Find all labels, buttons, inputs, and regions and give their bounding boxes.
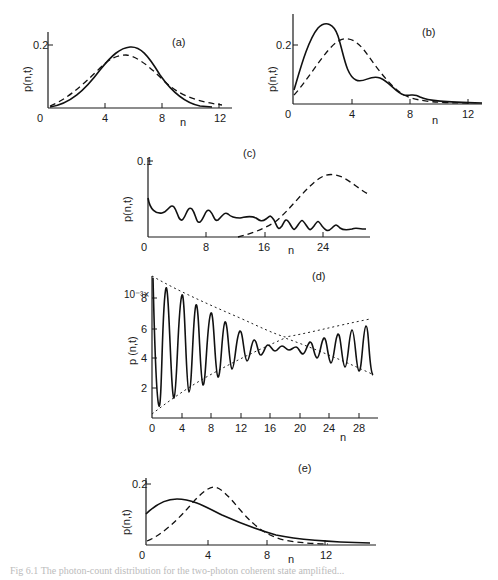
panel-d-ylabel: p (n,t) <box>126 336 138 365</box>
panel-d-ytick-4: 4 <box>141 352 147 364</box>
panel-d-oscillating-curve <box>153 278 373 406</box>
panel-e-xtick-12: 12 <box>320 549 332 561</box>
panel-e-ytick: 0.2 <box>132 478 147 490</box>
panel-b-solid-curve <box>294 24 482 103</box>
panel-e-title: (e) <box>298 462 311 474</box>
panel-e-solid-curve <box>146 499 370 543</box>
panel-a-xtick-4: 4 <box>102 112 108 124</box>
panel-d-xtick-0: 0 <box>149 422 155 434</box>
panel-d-ytick-2: 2 <box>141 382 147 394</box>
panel-a-xtick-8: 8 <box>159 112 165 124</box>
panel-c-xtick-16: 16 <box>258 241 270 253</box>
panel-a-xtick-12: 12 <box>214 112 226 124</box>
panel-d-xtick-28: 28 <box>353 422 365 434</box>
panel-c-xlabel: n <box>288 244 294 256</box>
panel-b-title: (b) <box>422 26 435 38</box>
panel-a-xtick-0: 0 <box>37 112 43 124</box>
panel-d-xtick-12: 12 <box>235 422 247 434</box>
panel-e-dashed-curve <box>147 487 328 544</box>
panel-d-xtick-24: 24 <box>323 422 335 434</box>
panel-a-xlabel: n <box>180 116 186 128</box>
panel-d-xtick-8: 8 <box>208 422 214 434</box>
panel-b-xtick-12: 12 <box>462 108 474 120</box>
panel-c-xtick-0: 0 <box>141 241 147 253</box>
panel-a-ytick: 0.2 <box>33 39 48 51</box>
panel-b-xtick-8: 8 <box>407 108 413 120</box>
panel-d-xlabel: n <box>340 431 346 443</box>
panel-e-xtick-4: 4 <box>205 549 211 561</box>
panel-b-dashed-curve <box>294 39 470 103</box>
panel-c-solid-curve <box>148 198 366 230</box>
panel-a-dashed-curve <box>50 55 222 106</box>
panel-d-scale-label: 10⁻³× <box>124 289 149 300</box>
figure: 0.2 0 4 8 12 n p(n,t) (a) 0.2 0 4 8 12 n… <box>0 0 498 580</box>
panel-c-ytick: 0.1 <box>137 155 152 167</box>
panel-a-title: (a) <box>172 36 185 48</box>
panel-e-ylabel: p(n,t) <box>120 509 132 535</box>
panel-b-ytick: 0.2 <box>276 39 291 51</box>
panel-a-ylabel: p(n,t) <box>21 66 33 92</box>
panel-b-xtick-4: 4 <box>349 108 355 120</box>
panel-c-dashed-curve <box>238 175 370 238</box>
panel-d: 2 4 6 8 10⁻³× 0 4 8 12 16 20 24 28 n p (… <box>124 270 378 443</box>
panel-d-xtick-4: 4 <box>179 422 185 434</box>
panel-d-ytick-6: 6 <box>141 323 147 335</box>
panel-b: 0.2 0 4 8 12 n p(n,t) (b) <box>266 14 482 126</box>
panel-e-xtick-0: 0 <box>139 549 145 561</box>
panel-c-title: (c) <box>243 147 256 159</box>
panel-d-lower-envelope <box>152 338 372 414</box>
panel-b-ylabel: p(n,t) <box>266 66 278 92</box>
panel-d-xtick-20: 20 <box>294 422 306 434</box>
panel-e-xlabel: n <box>288 553 294 565</box>
panel-a-solid-curve <box>50 47 212 107</box>
panel-c-xtick-24: 24 <box>317 241 329 253</box>
panel-a: 0.2 0 4 8 12 n p(n,t) (a) <box>21 32 232 128</box>
panel-e-xtick-8: 8 <box>264 549 270 561</box>
panel-c-xtick-8: 8 <box>203 241 209 253</box>
panel-d-xtick-16: 16 <box>264 422 276 434</box>
panel-c: 0.1 0 8 16 24 n p(n,t) (c) <box>121 147 370 256</box>
panel-c-ylabel: p(n,t) <box>121 196 133 222</box>
figure-caption: Fig 6.1 The photon-count distribution fo… <box>10 565 344 576</box>
panel-d-title: (d) <box>312 270 325 282</box>
panel-b-xtick-0: 0 <box>285 108 291 120</box>
panel-b-xlabel: n <box>432 114 438 126</box>
panel-e: 0.2 0 4 8 12 n p(n,t) (e) <box>120 462 376 565</box>
